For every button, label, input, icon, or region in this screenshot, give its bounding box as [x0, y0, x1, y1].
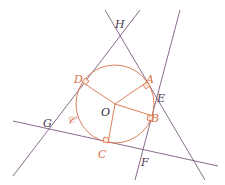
- label-F: F: [140, 156, 149, 169]
- label-D: D: [73, 73, 83, 86]
- line-GH: [13, 10, 140, 176]
- geometry-diagram: H D A E O B G 𝒞 C F: [0, 0, 225, 185]
- label-C: C: [98, 148, 107, 161]
- circle-group: [76, 65, 154, 143]
- radius-OB: [115, 104, 153, 116]
- radius-OA: [115, 82, 147, 104]
- radius-OD: [82, 82, 115, 104]
- line-HE: [105, 10, 205, 180]
- label-B: B: [150, 112, 159, 125]
- label-circle: 𝒞: [67, 114, 78, 127]
- label-H: H: [114, 18, 125, 31]
- right-angle-markers: [82, 78, 153, 143]
- label-G: G: [43, 117, 52, 130]
- label-O: O: [101, 106, 110, 119]
- label-A: A: [145, 73, 154, 86]
- label-E: E: [156, 92, 165, 105]
- tangent-lines: [13, 10, 218, 180]
- right-angle-C-icon: [103, 137, 109, 143]
